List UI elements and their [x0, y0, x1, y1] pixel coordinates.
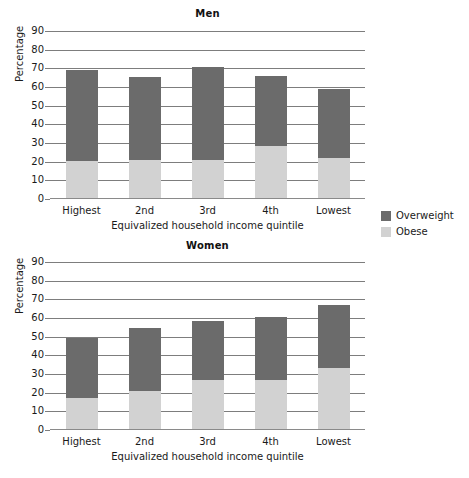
bar-segment-overweight — [192, 321, 224, 380]
x-tick-label: Highest — [62, 205, 100, 216]
chart-page: Men Percentage 0102030405060708090 Equiv… — [0, 0, 469, 478]
y-tick-mark — [45, 355, 50, 356]
bar-segment-overweight — [66, 338, 98, 398]
legend-item-overweight: Overweight — [381, 210, 454, 221]
bar-segment-obese — [66, 161, 98, 198]
y-axis-label-women: Percentage — [14, 258, 25, 314]
legend-swatch-obese-icon — [381, 227, 391, 237]
y-tick-label: 50 — [31, 332, 44, 342]
bar-segment-overweight — [255, 317, 287, 380]
y-tick-label: 20 — [31, 388, 44, 398]
y-tick-label: 0 — [38, 425, 44, 435]
bar-stack — [255, 317, 287, 429]
x-axis-label-men: Equivalized household income quintile — [50, 220, 365, 231]
y-tick-mark — [45, 31, 50, 32]
x-tick-label: 2nd — [135, 436, 154, 447]
chart-panel-women: Women Percentage 0102030405060708090 Equ… — [0, 240, 380, 472]
y-tick-label: 10 — [31, 406, 44, 416]
y-tick-mark — [45, 162, 50, 163]
y-tick-label: 60 — [31, 313, 44, 323]
legend-swatch-overweight-icon — [381, 211, 391, 221]
y-tick-label: 0 — [38, 194, 44, 204]
y-tick-label: 80 — [31, 45, 44, 55]
y-tick-label: 40 — [31, 119, 44, 129]
y-tick-mark — [45, 262, 50, 263]
gridline — [50, 50, 365, 51]
y-tick-label: 40 — [31, 350, 44, 360]
y-tick-mark — [45, 374, 50, 375]
chart-title-women: Women — [50, 240, 365, 251]
bar-segment-overweight — [129, 77, 161, 160]
chart-legend: Overweight Obese — [381, 210, 454, 242]
gridline — [50, 262, 365, 263]
bar-segment-obese — [255, 380, 287, 429]
bar-stack — [255, 76, 287, 198]
y-tick-label: 20 — [31, 157, 44, 167]
y-tick-label: 80 — [31, 276, 44, 286]
y-tick-mark — [45, 393, 50, 394]
bar-segment-overweight — [318, 89, 350, 158]
y-tick-label: 30 — [31, 369, 44, 379]
bar-stack — [318, 305, 350, 429]
y-tick-mark — [45, 50, 50, 51]
y-tick-label: 50 — [31, 101, 44, 111]
y-tick-mark — [45, 124, 50, 125]
y-tick-label: 60 — [31, 82, 44, 92]
bar-segment-obese — [66, 398, 98, 429]
chart-panel-men: Men Percentage 0102030405060708090 Equiv… — [0, 8, 380, 236]
bar-segment-obese — [129, 391, 161, 429]
x-tick-label: Highest — [62, 436, 100, 447]
bar-stack — [192, 67, 224, 198]
y-tick-label: 90 — [31, 257, 44, 267]
bar-segment-obese — [318, 368, 350, 429]
bar-stack — [129, 328, 161, 429]
y-tick-mark — [45, 337, 50, 338]
y-tick-label: 10 — [31, 175, 44, 185]
y-tick-mark — [45, 68, 50, 69]
bar-segment-overweight — [192, 67, 224, 159]
bar-segment-obese — [192, 160, 224, 198]
bar-stack — [66, 70, 98, 198]
x-tick-label: 3rd — [199, 436, 216, 447]
bar-segment-overweight — [255, 76, 287, 146]
y-tick-mark — [45, 180, 50, 181]
bar-segment-overweight — [66, 70, 98, 161]
x-tick-label: 3rd — [199, 205, 216, 216]
y-tick-mark — [45, 411, 50, 412]
gridline — [50, 281, 365, 282]
y-tick-label: 30 — [31, 138, 44, 148]
chart-title-men: Men — [50, 8, 365, 19]
legend-label-overweight: Overweight — [396, 210, 454, 221]
bar-segment-overweight — [318, 305, 350, 368]
bar-segment-obese — [192, 380, 224, 429]
y-tick-mark — [45, 199, 50, 200]
x-tick-label: Lowest — [316, 436, 351, 447]
bar-stack — [66, 338, 98, 429]
legend-item-obese: Obese — [381, 226, 454, 237]
bar-segment-overweight — [129, 328, 161, 391]
x-axis-label-women: Equivalized household income quintile — [50, 451, 365, 462]
bar-segment-obese — [255, 146, 287, 198]
y-axis-label-men: Percentage — [14, 26, 25, 82]
x-tick-label: 4th — [262, 436, 279, 447]
y-tick-label: 70 — [31, 294, 44, 304]
y-tick-mark — [45, 143, 50, 144]
bar-segment-obese — [129, 160, 161, 198]
bar-stack — [129, 77, 161, 198]
y-tick-mark — [45, 299, 50, 300]
y-tick-mark — [45, 430, 50, 431]
legend-label-obese: Obese — [396, 226, 428, 237]
plot-area-men: 0102030405060708090 — [50, 31, 365, 199]
plot-area-women: 0102030405060708090 — [50, 262, 365, 430]
x-tick-label: Lowest — [316, 205, 351, 216]
bar-segment-obese — [318, 158, 350, 198]
gridline — [50, 31, 365, 32]
y-tick-mark — [45, 318, 50, 319]
y-tick-label: 70 — [31, 63, 44, 73]
gridline — [50, 299, 365, 300]
y-tick-mark — [45, 106, 50, 107]
x-tick-label: 4th — [262, 205, 279, 216]
bar-stack — [192, 321, 224, 429]
y-tick-label: 90 — [31, 26, 44, 36]
x-tick-label: 2nd — [135, 205, 154, 216]
